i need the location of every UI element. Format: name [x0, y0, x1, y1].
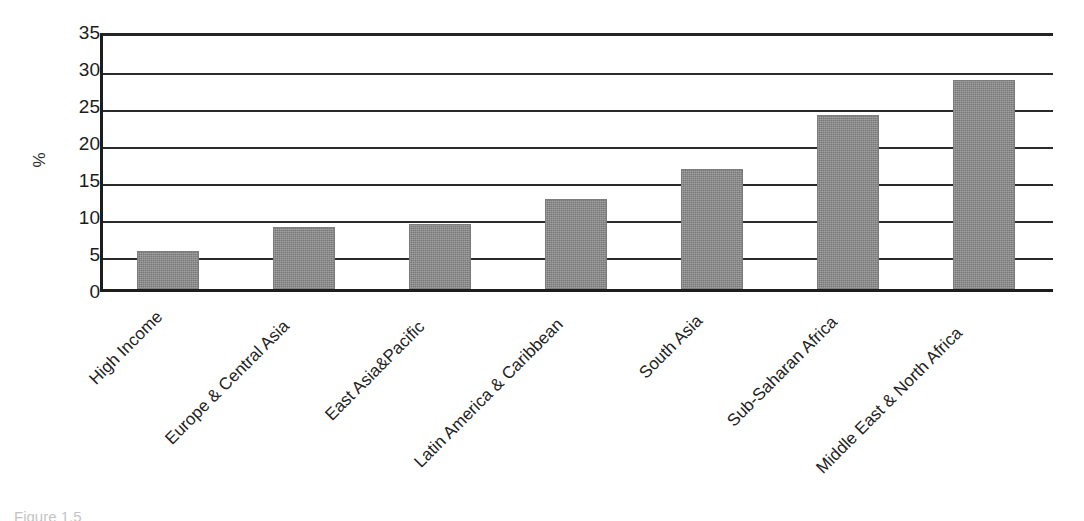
x-label-4: Latin America & Caribbean — [410, 316, 565, 471]
x-label-7: Middle East & North Africa — [813, 325, 965, 477]
bar-6 — [817, 115, 879, 289]
plot-area — [100, 33, 1053, 292]
bar-5 — [681, 169, 743, 289]
y-tick-10: 10 — [79, 208, 100, 227]
bar-1 — [137, 251, 199, 289]
y-tick-25: 25 — [79, 97, 100, 116]
bar-series — [103, 36, 1053, 289]
bar-4 — [545, 199, 607, 289]
y-tick-35: 35 — [79, 23, 100, 42]
x-label-5: South Asia — [636, 312, 705, 381]
x-label-2: Europe & Central Asia — [162, 317, 292, 447]
y-tick-5: 5 — [89, 245, 100, 264]
bar-7 — [953, 80, 1015, 289]
y-tick-20: 20 — [79, 134, 100, 153]
y-axis-title: % — [22, 142, 58, 178]
bar-chart-figure: % 35302520151050 High IncomeEurope & Cen… — [0, 0, 1084, 521]
x-label-1: High Income — [86, 308, 166, 388]
x-label-6: Sub-Saharan Africa — [724, 313, 840, 429]
x-axis-category-labels: High IncomeEurope & Central AsiaEast Asi… — [0, 292, 1084, 492]
y-tick-30: 30 — [79, 60, 100, 79]
x-label-3: East Asia&Pacific — [322, 318, 428, 424]
figure-caption: Figure 1.5 — [14, 509, 434, 521]
bar-2 — [273, 227, 335, 289]
y-tick-15: 15 — [79, 171, 100, 190]
bar-3 — [409, 224, 471, 289]
